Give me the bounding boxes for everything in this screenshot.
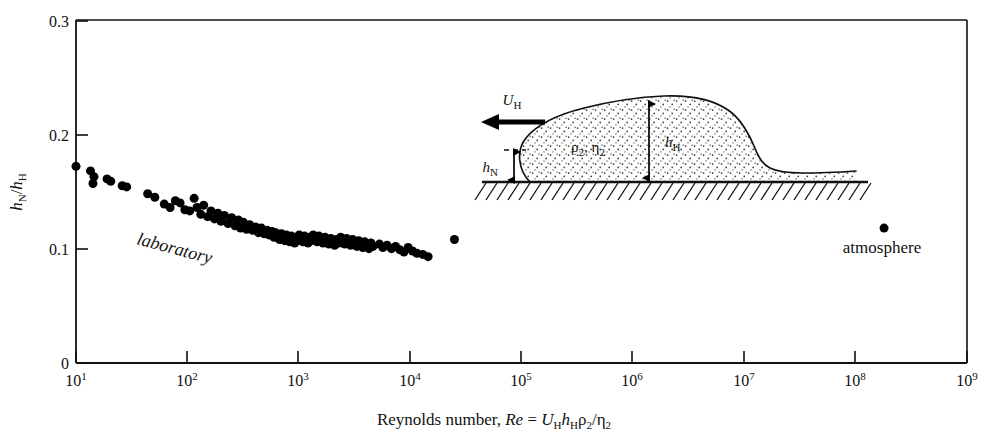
chart-background: [0, 0, 988, 442]
atmosphere-annotation-text: atmosphere: [843, 238, 921, 257]
x-title-eta: η: [597, 410, 606, 429]
data-point-laboratory: [72, 162, 81, 171]
x-title-re: Re: [504, 410, 523, 429]
data-point-laboratory: [424, 252, 433, 261]
data-point-laboratory: [88, 179, 97, 188]
atmosphere-data-series: [880, 224, 889, 233]
data-point-laboratory: [199, 201, 208, 210]
data-point-laboratory: [190, 194, 199, 203]
y-tick-label-0.1: 0.1: [49, 241, 69, 258]
x-title-prefix: Reynolds number,: [377, 410, 505, 429]
x-title-hh-sub: H: [570, 419, 578, 431]
x-title-rho: ρ: [578, 410, 586, 429]
y-title-sub2: H: [16, 173, 28, 181]
data-point-laboratory: [450, 235, 459, 244]
data-point-laboratory: [122, 182, 131, 191]
data-point-laboratory: [150, 193, 159, 202]
y-tick-label-0: 0: [61, 355, 69, 372]
y-title-h2: h: [7, 181, 26, 190]
y-title-sub1: N: [16, 194, 28, 202]
x-title-hh: h: [561, 410, 570, 429]
x-title-u-sub: H: [554, 419, 562, 431]
x-title-eta-sub: 2: [606, 419, 612, 431]
x-title-equals: =: [523, 410, 541, 429]
y-title-h1: h: [7, 202, 26, 211]
data-point-atmosphere: [880, 224, 889, 233]
data-point-laboratory: [106, 177, 115, 186]
y-tick-label-0.2: 0.2: [49, 127, 69, 144]
figure-container: 0.3 0.2 0.1 0 hN/hH 101 102 103 104 105 …: [0, 0, 988, 442]
reynolds-number-scatter-chart: 0.3 0.2 0.1 0 hN/hH 101 102 103 104 105 …: [0, 0, 988, 442]
y-tick-label-0.3: 0.3: [49, 13, 69, 30]
